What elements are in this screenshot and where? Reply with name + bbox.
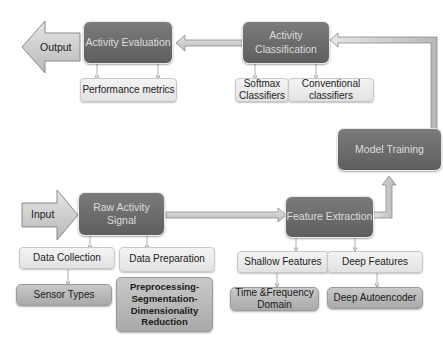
arrow-features-to-training [372, 176, 396, 218]
node-performance-metrics: Performance metrics [80, 78, 177, 102]
node-activity-evaluation: Activity Evaluation [83, 21, 173, 64]
node-data-collection: Data Collection [19, 247, 115, 269]
node-time-frequency: Time &Frequency Domain [230, 287, 319, 311]
node-model-training: Model Training [337, 128, 442, 171]
node-feature-extraction: Feature Extraction [285, 196, 374, 238]
output-label: Output [40, 41, 72, 53]
node-raw-activity-signal: Raw Activity Signal [78, 192, 165, 236]
node-preprocessing: Preprocessing-Segmentation-Dimensionalit… [116, 277, 213, 332]
node-deep-features: Deep Features [327, 251, 423, 273]
node-softmax-classifiers: Softmax Classifiers [235, 78, 289, 102]
node-conventional-classifiers: Conventional classifiers [288, 78, 374, 102]
node-shallow-features: Shallow Features [237, 251, 329, 273]
input-label: Input [31, 208, 54, 220]
node-sensor-types: Sensor Types [16, 284, 112, 306]
node-activity-classification: Activity Classification [242, 21, 330, 64]
diagram-canvas: Output Input Activity Evaluation Activit… [0, 0, 443, 346]
arrow-signal-to-features [166, 208, 286, 222]
node-deep-autoencoder: Deep Autoencoder [327, 287, 423, 309]
arrow-classification-to-evaluation [176, 35, 244, 51]
node-data-preparation: Data Preparation [119, 247, 215, 272]
